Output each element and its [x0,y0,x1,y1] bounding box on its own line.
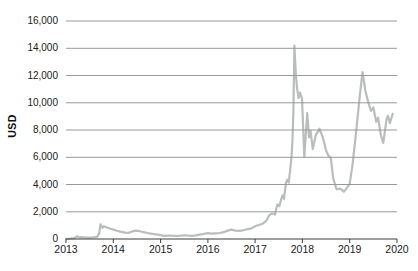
y-tick-label: 14,000 [0,42,58,54]
x-tick-label: 2014 [91,243,135,256]
y-tick-label: 6,000 [0,151,58,163]
plot-svg [0,0,418,271]
y-tick-label: 8,000 [0,124,58,136]
y-tick-label: 2,000 [0,206,58,218]
bitcoin-price-chart: USD 16,00014,00012,00010,0008,0006,0004,… [0,0,418,271]
x-tick-label: 2018 [280,243,324,256]
y-tick-label: 10,000 [0,97,58,109]
x-tick-label: 2019 [328,243,372,256]
x-tick-label: 2013 [44,243,88,256]
x-tick-label: 2017 [233,243,277,256]
x-tick-label: 2016 [186,243,230,256]
x-tick-label: 2020 [375,243,418,256]
price-line [66,46,393,239]
y-tick-label: 16,000 [0,15,58,27]
y-tick-label: 4,000 [0,179,58,191]
y-tick-label: 12,000 [0,70,58,82]
x-tick-label: 2015 [139,243,183,256]
